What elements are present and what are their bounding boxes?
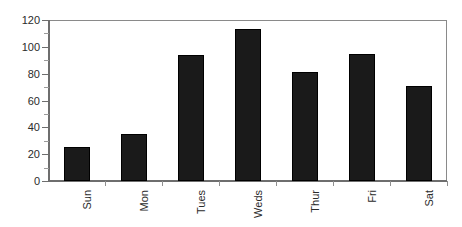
bar-fri xyxy=(349,54,375,181)
y-axis-tick-label: 20 xyxy=(2,149,40,160)
y-axis-tick-label: 80 xyxy=(2,69,40,80)
x-axis-tick xyxy=(333,181,334,186)
x-axis-tick xyxy=(162,181,163,186)
bars-layer xyxy=(48,20,447,181)
x-axis-tick xyxy=(219,181,220,186)
x-axis-tick-label-sat: Sat xyxy=(424,190,435,207)
bar-chart: 020406080100120 SunMonTuesWedsThurFriSat xyxy=(0,0,462,227)
x-axis-tick-label-sun: Sun xyxy=(82,190,93,210)
bar-sun xyxy=(64,147,90,181)
bar-tues xyxy=(178,55,204,181)
y-axis-labels: 020406080100120 xyxy=(0,0,40,227)
bar-sat xyxy=(406,86,432,181)
y-axis-tick-label: 60 xyxy=(2,96,40,107)
x-axis-tick-label-fri: Fri xyxy=(367,190,378,203)
y-axis-tick-label: 100 xyxy=(2,42,40,53)
bar-mon xyxy=(121,134,147,181)
x-axis-tick xyxy=(105,181,106,186)
x-axis-tick xyxy=(276,181,277,186)
bar-thur xyxy=(292,72,318,181)
x-axis-tick-label-thur: Thur xyxy=(310,190,321,213)
y-axis-tick-label: 40 xyxy=(2,122,40,133)
x-axis-tick-label-mon: Mon xyxy=(139,190,150,211)
bar-weds xyxy=(235,29,261,181)
y-axis-tick-major xyxy=(42,181,49,182)
x-axis-tick-label-tues: Tues xyxy=(196,190,207,214)
x-axis-tick xyxy=(390,181,391,186)
x-axis-tick xyxy=(447,181,448,186)
x-axis-tick-label-weds: Weds xyxy=(253,190,264,218)
y-axis-tick-label: 120 xyxy=(2,15,40,26)
y-axis-tick-label: 0 xyxy=(2,176,40,187)
